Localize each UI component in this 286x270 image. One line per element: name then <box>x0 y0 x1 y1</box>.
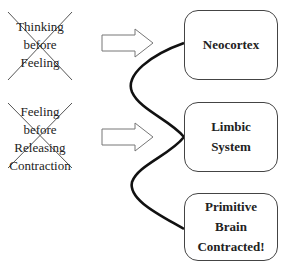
box-label: Limbic <box>211 117 251 137</box>
box-label: Brain <box>197 217 264 237</box>
box-neocortex: Neocortex <box>184 10 278 80</box>
arrow-right-icon-1 <box>102 29 153 57</box>
label-line: before <box>0 121 80 139</box>
label-line: Releasing <box>0 139 80 157</box>
label-line: Thinking <box>5 18 75 36</box>
crossed-label-feeling-before-releasing: Feeling before Releasing Contraction <box>0 103 80 175</box>
crossed-label-thinking-before-feeling: Thinking before Feeling <box>5 18 75 72</box>
box-label: Neocortex <box>203 35 259 55</box>
label-line: Contraction <box>0 157 80 175</box>
box-limbic-system: Limbic System <box>184 102 278 172</box>
box-label: Primitive <box>197 197 264 217</box>
label-line: before <box>5 36 75 54</box>
arrow-right-icon-2 <box>102 123 153 151</box>
box-primitive-brain: Primitive Brain Contracted! <box>184 193 278 261</box>
label-line: Feeling <box>5 54 75 72</box>
box-label: Contracted! <box>197 237 264 257</box>
box-label: System <box>211 137 251 157</box>
label-line: Feeling <box>0 103 80 121</box>
